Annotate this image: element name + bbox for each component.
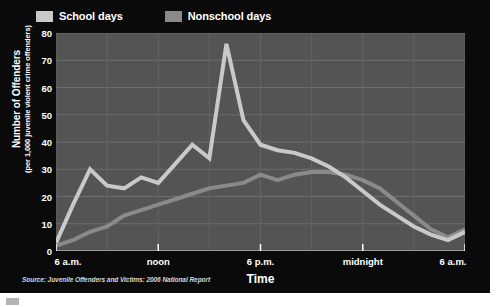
y-tick-label: 60 xyxy=(32,82,52,93)
legend-item-school-days: School days xyxy=(36,10,123,22)
y-tick-label: 40 xyxy=(32,137,52,148)
x-tick-label: midnight xyxy=(343,256,383,267)
legend-swatch-school-days xyxy=(36,11,53,22)
legend-swatch-nonschool-days xyxy=(165,11,182,22)
x-tick-label: 6 a.m. xyxy=(440,256,467,267)
chart-legend: School days Nonschool days xyxy=(36,7,271,25)
y-tick-label: 20 xyxy=(32,191,52,202)
y-tick-label: 50 xyxy=(32,109,52,120)
legend-item-nonschool-days: Nonschool days xyxy=(165,10,272,22)
y-tick-label: 10 xyxy=(32,218,52,229)
y-axis-title-main: Number of Offenders xyxy=(11,0,23,199)
x-tick-label: noon xyxy=(147,256,170,267)
x-axis-tick-labels: 6 a.m.noon6 p.m.midnight6 a.m. xyxy=(56,256,465,270)
source-note: Source: Juvenile Offenders and Victims: … xyxy=(22,276,210,283)
chart-canvas xyxy=(56,33,465,251)
corner-mark xyxy=(6,298,19,305)
legend-label-school-days: School days xyxy=(59,10,123,22)
x-tick-label: 6 a.m. xyxy=(55,256,82,267)
y-tick-label: 0 xyxy=(32,246,52,257)
plot-area xyxy=(56,33,465,251)
y-tick-label: 80 xyxy=(32,28,52,39)
chart-screenshot: School days Nonschool days Number of Off… xyxy=(0,0,500,307)
x-tick-label: 6 p.m. xyxy=(247,256,274,267)
figure-panel: School days Nonschool days Number of Off… xyxy=(0,0,490,293)
y-tick-label: 30 xyxy=(32,164,52,175)
y-tick-label: 70 xyxy=(32,55,52,66)
legend-label-nonschool-days: Nonschool days xyxy=(188,10,272,22)
y-axis-tick-labels: 01020304050607080 xyxy=(30,33,52,251)
